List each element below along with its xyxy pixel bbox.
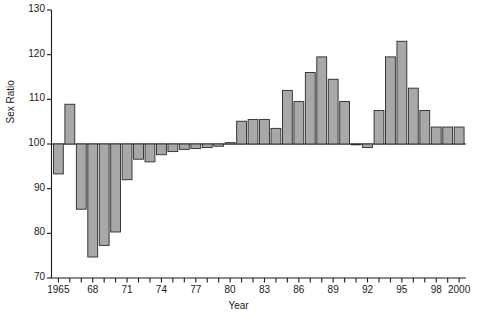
bar <box>351 144 361 145</box>
chart-figure: Sex Ratio Year 130120110100908070 196568… <box>0 0 477 322</box>
bar <box>386 57 396 144</box>
bar <box>122 144 132 180</box>
bar <box>202 144 212 148</box>
bar <box>191 144 201 148</box>
bar <box>76 144 86 209</box>
bar <box>237 121 247 144</box>
bar <box>408 88 418 144</box>
bar <box>88 144 98 257</box>
bar <box>374 111 384 145</box>
bar <box>397 41 407 144</box>
bar <box>168 144 178 152</box>
bar <box>260 119 270 144</box>
bar <box>328 79 338 144</box>
bar <box>248 119 258 144</box>
bar <box>145 144 155 162</box>
bar <box>282 90 292 144</box>
bar <box>294 102 304 144</box>
bar <box>271 128 281 144</box>
bar <box>363 144 373 148</box>
bar <box>317 57 327 144</box>
bar <box>214 144 224 146</box>
bar <box>431 127 441 144</box>
bar <box>134 144 144 159</box>
bar <box>65 104 75 144</box>
bar <box>225 143 235 144</box>
bar <box>305 73 315 144</box>
bar <box>454 127 464 144</box>
bars-group <box>53 41 464 257</box>
bar <box>443 127 453 144</box>
bar <box>111 144 121 232</box>
y-axis-ticks <box>47 10 52 278</box>
bar <box>340 102 350 144</box>
bar-chart-plot <box>0 0 477 322</box>
bar <box>157 144 167 155</box>
bar <box>420 111 430 145</box>
bar <box>53 144 63 174</box>
bar <box>179 144 189 149</box>
x-axis-ticks <box>58 278 459 283</box>
bar <box>99 144 109 245</box>
